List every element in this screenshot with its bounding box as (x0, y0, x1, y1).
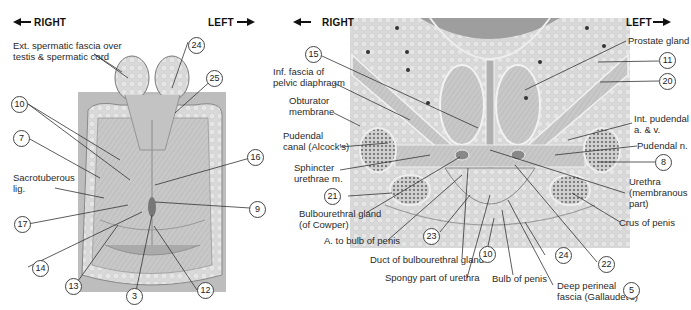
callout-12: 12 (197, 282, 214, 299)
label-crus-of-penis: Crus of penis (619, 217, 675, 228)
callout-24-right: 24 (555, 247, 572, 264)
label-pudendal-n: Pudendal n. (637, 140, 688, 151)
label-urethra-membranous: Urethra (membranous part) (629, 176, 688, 209)
callout-24-left: 24 (188, 37, 205, 54)
label-pudendal-canal: Pudendal canal (Alcock's) (283, 130, 349, 152)
callout-25: 25 (206, 70, 223, 87)
callout-20: 20 (659, 73, 676, 90)
callout-7: 7 (13, 130, 30, 147)
label-ext-spermatic-fascia: Ext. spermatic fascia over testis & sper… (13, 40, 122, 62)
callout-11: 11 (659, 52, 676, 69)
direction-right-label-2: RIGHT (322, 17, 354, 28)
callout-3: 3 (126, 288, 143, 305)
label-bulbourethral-gland: Bulbourethral gland (of Cowper) (299, 208, 381, 230)
label-a-to-bulb-of-penis: A. to bulb of penis (324, 235, 400, 246)
label-bulb-of-penis: Bulb of penis (492, 273, 547, 284)
direction-right-label: RIGHT (34, 17, 66, 28)
callout-16: 16 (247, 149, 264, 166)
label-obturator-membrane: Obturator membrane (289, 95, 334, 117)
callout-8: 8 (655, 154, 672, 171)
perineum-illustration-right (350, 18, 630, 248)
direction-left-label: LEFT (208, 17, 234, 28)
callout-10-right: 10 (479, 246, 496, 263)
label-spongy-urethra: Spongy part of urethra (385, 272, 480, 283)
label-int-pudendal-av: Int. pudendal a. & v. (634, 113, 689, 135)
label-duct-bulbourethral-gland: Duct of bulbourethral gland (370, 254, 484, 265)
label-sphincter-urethrae: Sphincter urethrae m. (294, 162, 343, 184)
callout-9: 9 (249, 201, 266, 218)
callout-14: 14 (32, 260, 49, 277)
callout-22: 22 (598, 256, 615, 273)
callout-21: 21 (324, 188, 341, 205)
callout-15: 15 (305, 46, 322, 63)
callout-10-left: 10 (11, 96, 28, 113)
callout-13: 13 (65, 278, 82, 295)
label-sacrotuberous-lig: Sacrotuberous lig. (13, 172, 75, 194)
callout-23: 23 (423, 228, 440, 245)
callout-17: 17 (14, 216, 31, 233)
label-inf-fascia-pelvic-diaphragm: Inf. fascia of pelvic diaphragm (273, 66, 345, 88)
callout-5: 5 (623, 282, 640, 299)
label-prostate-gland: Prostate gland (628, 35, 689, 46)
perineum-illustration-left (78, 56, 226, 292)
direction-left-label-2: LEFT (626, 17, 652, 28)
